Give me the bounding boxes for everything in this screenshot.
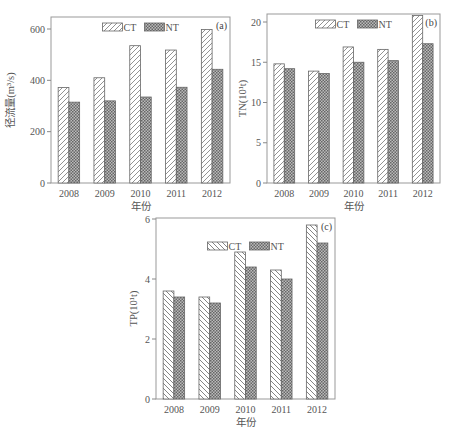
legend-label-ct: CT [229, 241, 242, 252]
legend-swatch-nt [250, 242, 270, 250]
bar-ct-2009 [94, 78, 105, 183]
bar-nt-2010 [246, 267, 257, 399]
bar-ct-2011 [166, 50, 177, 183]
x-tick-label: 2008 [274, 188, 294, 199]
legend-swatch-nt [145, 23, 165, 31]
legend-swatch-ct [103, 23, 123, 31]
bar-nt-2008 [284, 69, 294, 183]
bar-nt-2011 [176, 87, 187, 183]
x-tick-label: 2011 [166, 188, 186, 199]
x-tick-label: 2011 [378, 188, 398, 199]
bar-nt-2012 [212, 69, 223, 183]
bar-ct-2009 [309, 71, 319, 183]
legend-swatch-ct [316, 20, 336, 28]
x-axis-label: 年份 [344, 200, 365, 212]
panel-label: (b) [425, 17, 437, 29]
x-tick-label: 2011 [271, 404, 291, 415]
panel-label: (c) [321, 221, 332, 233]
y-axis-label: 径流量(m³/s) [4, 72, 17, 128]
bar-nt-2011 [388, 61, 398, 183]
bar-ct-2012 [412, 16, 422, 183]
bar-nt-2012 [423, 44, 433, 183]
x-tick-label: 2012 [202, 188, 222, 199]
y-tick-label: 4 [145, 274, 150, 285]
panel-label: (a) [216, 20, 227, 32]
chart-panel-a: 020040060020082009201020112012年份径流量(m³/s… [4, 17, 230, 212]
x-tick-label: 2008 [164, 404, 184, 415]
bar-nt-2008 [174, 297, 185, 399]
bar-ct-2008 [58, 88, 69, 183]
y-tick-label: 0 [40, 178, 45, 189]
legend-label-nt: NT [166, 22, 179, 33]
x-axis-label: 年份 [236, 416, 257, 428]
y-tick-label: 0 [256, 178, 261, 189]
y-tick-label: 600 [30, 24, 45, 35]
x-tick-label: 2010 [131, 188, 151, 199]
bar-ct-2008 [163, 291, 174, 399]
y-tick-label: 5 [256, 137, 261, 148]
legend-label-ct: CT [124, 22, 137, 33]
bar-ct-2011 [378, 49, 388, 183]
x-axis-label: 年份 [131, 200, 152, 212]
x-tick-label: 2012 [307, 404, 327, 415]
bar-ct-2010 [130, 46, 141, 183]
bar-ct-2012 [306, 225, 317, 399]
bar-ct-2010 [343, 47, 353, 183]
bar-nt-2009 [319, 74, 329, 183]
y-tick-label: 2 [145, 334, 150, 345]
y-tick-label: 10 [251, 97, 261, 108]
bar-ct-2012 [201, 30, 212, 183]
x-tick-label: 2010 [236, 404, 256, 415]
x-tick-label: 2009 [200, 404, 220, 415]
bar-nt-2008 [69, 102, 80, 183]
legend-label-nt: NT [271, 241, 284, 252]
y-tick-label: 6 [145, 214, 150, 225]
chart-panel-b: 0510152020082009201020112012年份TN(10¹t)(b… [237, 14, 440, 212]
y-tick-label: 20 [251, 17, 261, 28]
y-axis-label: TP(10¹t) [128, 290, 140, 326]
bar-nt-2009 [210, 303, 221, 399]
x-tick-label: 2012 [413, 188, 433, 199]
x-tick-label: 2009 [309, 188, 329, 199]
y-tick-label: 200 [30, 126, 45, 137]
legend-swatch-ct [208, 242, 228, 250]
legend-label-nt: NT [379, 19, 392, 30]
chart-panel-c: 024620082009201020112012年份TP(10¹t)(c)CTN… [128, 214, 335, 429]
bar-nt-2011 [281, 279, 292, 399]
bar-ct-2008 [274, 64, 284, 183]
y-tick-label: 0 [145, 394, 150, 405]
x-tick-label: 2009 [95, 188, 115, 199]
bar-nt-2009 [105, 101, 116, 183]
bar-ct-2010 [235, 252, 246, 399]
bar-ct-2011 [271, 270, 282, 399]
y-axis-label: TN(10¹t) [237, 79, 249, 117]
bar-nt-2010 [141, 97, 152, 183]
legend-swatch-nt [358, 20, 378, 28]
x-tick-label: 2008 [59, 188, 79, 199]
bar-nt-2012 [317, 243, 328, 399]
bar-nt-2010 [354, 62, 364, 183]
legend-label-ct: CT [337, 19, 350, 30]
x-tick-label: 2010 [344, 188, 364, 199]
y-tick-label: 15 [251, 57, 261, 68]
figure: 020040060020082009201020112012年份径流量(m³/s… [0, 0, 451, 440]
bar-ct-2009 [199, 297, 210, 399]
y-tick-label: 400 [30, 75, 45, 86]
